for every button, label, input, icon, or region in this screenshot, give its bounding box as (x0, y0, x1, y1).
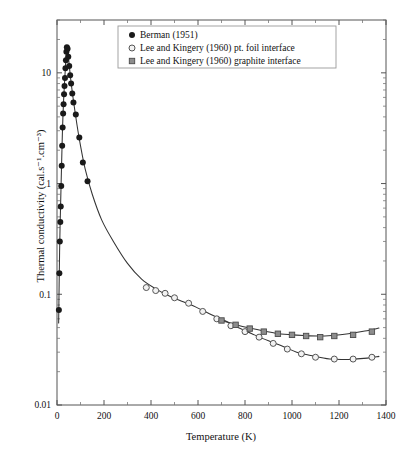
data-point (65, 46, 71, 52)
data-point (59, 143, 65, 149)
data-point (261, 329, 266, 334)
legend-marker-0 (129, 32, 135, 38)
chart-legend: Berman (1951)Lee and Kingery (1960) pt. … (118, 26, 336, 68)
berman-fit (59, 47, 379, 360)
data-point (303, 333, 308, 338)
data-point (186, 300, 192, 306)
data-point (57, 219, 63, 225)
thermal-conductivity-figure: 0200400600800100012001400 0.010.1110 Ber… (0, 0, 410, 460)
chart-canvas: 0200400600800100012001400 0.010.1110 Ber… (0, 0, 410, 460)
data-point (275, 331, 280, 336)
x-tick-label: 600 (191, 411, 206, 421)
x-tick-label: 800 (238, 411, 253, 421)
plot-frame (57, 20, 386, 405)
y-axis-ticks: 0.010.1110 (34, 20, 386, 410)
series-1 (143, 285, 375, 362)
legend-marker-1 (129, 45, 135, 51)
data-point (172, 295, 178, 301)
data-point (61, 101, 67, 107)
data-point (59, 163, 65, 169)
x-axis-title: Temperature (K) (186, 431, 257, 443)
legend-label: Lee and Kingery (1960) pt. foil interfac… (140, 43, 295, 54)
data-point (73, 112, 79, 118)
y-tick-label: 10 (42, 68, 52, 78)
data-point (62, 83, 68, 89)
data-point (313, 354, 319, 360)
data-point (270, 340, 276, 346)
data-point (62, 75, 68, 81)
data-point (56, 307, 62, 313)
data-point (153, 288, 159, 294)
data-point (65, 54, 71, 60)
data-point (143, 285, 149, 291)
data-points (56, 44, 375, 362)
data-point (200, 308, 206, 314)
y-axis-title: Thermal conductivity (cal.s⁻¹.cm⁻³) (34, 81, 46, 331)
x-tick-label: 400 (144, 411, 159, 421)
data-point (76, 135, 82, 141)
x-tick-label: 1400 (377, 411, 396, 421)
data-point (331, 356, 337, 362)
data-point (85, 178, 91, 184)
data-point (289, 332, 294, 337)
x-tick-label: 200 (97, 411, 112, 421)
data-point (68, 81, 74, 87)
data-point (69, 91, 75, 97)
data-point (219, 318, 224, 323)
data-point (57, 238, 63, 244)
series-2 (219, 318, 375, 340)
y-tick-label: 0.01 (34, 400, 51, 410)
data-point (256, 334, 262, 340)
x-tick-label: 0 (55, 411, 60, 421)
data-point (58, 183, 64, 189)
x-axis-ticks: 0200400600800100012001400 (55, 20, 396, 421)
data-point (350, 356, 356, 362)
data-point (332, 333, 337, 338)
x-tick-label: 1000 (283, 411, 302, 421)
data-point (56, 270, 62, 276)
data-point (247, 326, 252, 331)
data-point (318, 334, 323, 339)
data-point (284, 346, 290, 352)
data-point (60, 125, 66, 131)
y-tick-label: 1 (46, 179, 51, 189)
data-point (60, 110, 66, 116)
data-point (369, 329, 374, 334)
data-point (58, 204, 64, 210)
legend-label: Berman (1951) (140, 30, 198, 41)
data-point (350, 332, 355, 337)
data-point (80, 159, 86, 165)
data-point (298, 351, 304, 357)
legend-marker-2 (129, 58, 134, 63)
data-point (61, 91, 67, 97)
data-point (233, 322, 238, 327)
data-point (67, 72, 73, 78)
x-tick-label: 1200 (330, 411, 349, 421)
data-point (66, 63, 72, 69)
data-point (369, 354, 375, 360)
legend-label: Lee and Kingery (1960) graphite interfac… (140, 56, 301, 67)
fit-curves (59, 47, 379, 360)
data-point (162, 290, 168, 296)
data-point (70, 99, 76, 105)
